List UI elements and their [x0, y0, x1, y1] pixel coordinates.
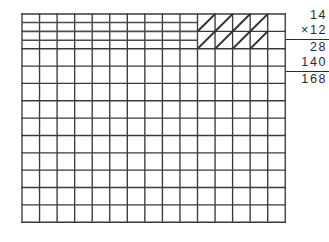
- grid-figure: [0, 0, 329, 242]
- long-multiplication-calculation: 14 ×12 28 140 168: [286, 8, 329, 87]
- partial-product-first: 28: [286, 39, 329, 56]
- partial-product-second: 140: [286, 55, 329, 70]
- multiplicand: 14: [286, 8, 329, 23]
- multiplier: ×12: [286, 23, 329, 38]
- figure-root: 14 ×12 28 140 168: [0, 0, 329, 242]
- product-total: 168: [286, 71, 329, 88]
- hatched-block: [198, 14, 268, 49]
